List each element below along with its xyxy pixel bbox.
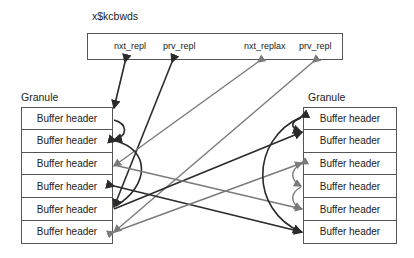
right-curve-4-5 bbox=[293, 187, 301, 209]
left-buffer-header-6: Buffer header bbox=[21, 221, 113, 244]
left-buffer-header-2: Buffer header bbox=[21, 130, 113, 153]
right-buffer-header-2: Buffer header bbox=[303, 130, 397, 153]
nxt-replax-arrow bbox=[114, 62, 258, 166]
left-buffer-header-4: Buffer header bbox=[21, 175, 113, 198]
right-buffer-header-6: Buffer header bbox=[303, 221, 397, 244]
prv-repl-arrow bbox=[114, 62, 172, 207]
right-curve-1-2 bbox=[293, 118, 301, 132]
field-nxt-replax: nxt_replax bbox=[244, 41, 286, 51]
left-buffer-header-3: Buffer header bbox=[21, 153, 113, 176]
structure-title: x$kcbwds bbox=[92, 10, 138, 22]
prv-replax-arrow bbox=[114, 62, 313, 232]
right-curve-3-4 bbox=[293, 164, 301, 186]
left-curve-2-5 bbox=[116, 141, 142, 206]
left-curve-1-2 bbox=[114, 120, 125, 140]
nxt-repl-arrow bbox=[114, 62, 125, 108]
right-buffer-header-4: Buffer header bbox=[303, 175, 397, 198]
left-granule-label: Granule bbox=[21, 91, 58, 103]
left-buffer-header-1: Buffer header bbox=[21, 107, 113, 130]
cross-l5-r2 bbox=[114, 132, 302, 209]
cross-l3-r5 bbox=[114, 165, 302, 209]
field-prv-replax: prv_repl bbox=[299, 41, 332, 51]
kcbwds-structure-box: nxt_repl prv_repl nxt_replax prv_repl bbox=[87, 33, 343, 60]
right-buffer-header-5: Buffer header bbox=[303, 198, 397, 221]
right-arc-1-6 bbox=[263, 117, 301, 232]
right-granule-label: Granule bbox=[308, 91, 345, 103]
right-buffer-header-3: Buffer header bbox=[303, 153, 397, 176]
cross-l4-r6 bbox=[114, 186, 302, 232]
cross-l6-r3 bbox=[114, 163, 302, 232]
right-buffer-header-1: Buffer header bbox=[303, 107, 397, 130]
left-buffer-header-5: Buffer header bbox=[21, 198, 113, 221]
left-granule-stack: Buffer header Buffer header Buffer heade… bbox=[21, 107, 113, 244]
field-nxt-repl: nxt_repl bbox=[114, 41, 146, 51]
field-prv-repl: prv_repl bbox=[163, 41, 196, 51]
right-granule-stack: Buffer header Buffer header Buffer heade… bbox=[303, 107, 397, 244]
